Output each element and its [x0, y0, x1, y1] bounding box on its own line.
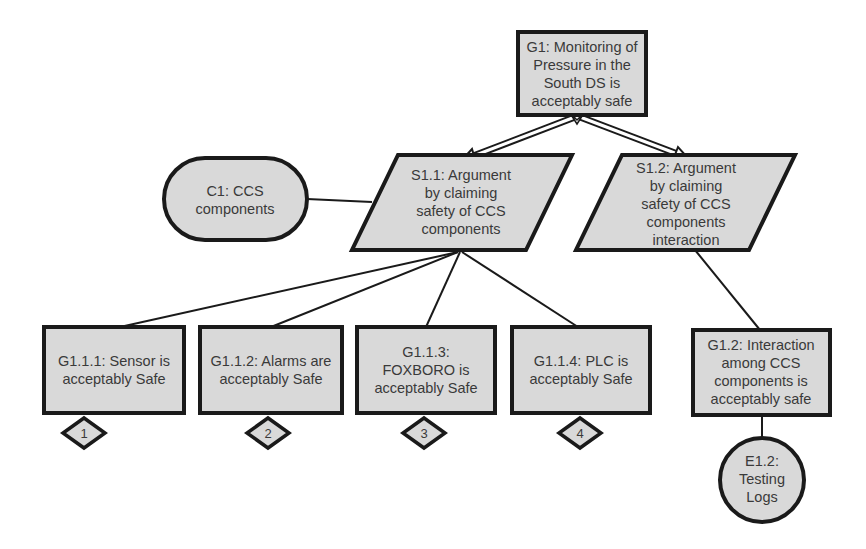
svg-text:acceptably Safe: acceptably Safe [374, 380, 477, 396]
svg-text:3: 3 [420, 426, 427, 441]
node-text-line: by claiming [425, 185, 498, 201]
svg-text:G1.2: Interaction: G1.2: Interaction [707, 337, 814, 353]
svg-text:safety of CCS: safety of CCS [416, 203, 505, 219]
node-text-line: components [647, 214, 726, 230]
svg-text:acceptably safe: acceptably safe [532, 93, 633, 109]
node-text-line: among CCS [722, 355, 801, 371]
context-c1[interactable]: C1: CCS components [164, 158, 307, 240]
node-text-line: FOXBORO is [382, 362, 469, 378]
svg-text:components: components [422, 221, 501, 237]
undeveloped-diamond-4[interactable]: 4 [559, 418, 601, 448]
node-text-line: components is [714, 373, 808, 389]
goal-g1[interactable]: G1: Monitoring of Pressure in the South … [518, 32, 646, 115]
svg-text:Logs: Logs [746, 489, 777, 505]
node-text-line: G1.1.4: PLC is [534, 353, 628, 369]
node-text-line: G1.1.1: Sensor is [58, 353, 170, 369]
node-text-line: acceptably safe [711, 391, 812, 407]
node-text-line: G1.2: Interaction [707, 337, 814, 353]
edge-c1-s1-1 [307, 199, 372, 202]
edge-s1-1-g1-1-2 [271, 252, 458, 327]
node-text-line: acceptably Safe [374, 380, 477, 396]
node-text-line: Logs [746, 489, 777, 505]
gsn-diagram: G1: Monitoring of Pressure in the South … [0, 0, 866, 549]
svg-text:4: 4 [576, 426, 583, 441]
node-text-line: safety of CCS [641, 196, 730, 212]
svg-text:G1.1.3:: G1.1.3: [402, 344, 450, 360]
edge-s1-1-g1-1-1 [120, 252, 458, 327]
svg-text:by claiming: by claiming [425, 185, 498, 201]
svg-text:acceptably Safe: acceptably Safe [62, 371, 165, 387]
svg-text:Testing: Testing [739, 471, 785, 487]
node-text-line: interaction [653, 232, 720, 248]
svg-text:G1.1.2: Alarms are: G1.1.2: Alarms are [211, 353, 332, 369]
edge-s1-2-g1-2 [695, 250, 760, 330]
svg-text:C1: CCS: C1: CCS [206, 183, 263, 199]
undeveloped-diamond-3[interactable]: 3 [403, 418, 445, 448]
diamond-label: 3 [420, 426, 427, 441]
diamond-label: 2 [264, 426, 271, 441]
node-text-line: acceptably Safe [529, 371, 632, 387]
goal-g1-1-2[interactable]: G1.1.2: Alarms are acceptably Safe [200, 327, 342, 413]
goal-g1-1-4[interactable]: G1.1.4: PLC is acceptably Safe [512, 327, 650, 413]
diamond-label: 1 [80, 426, 87, 441]
svg-text:components: components [647, 214, 726, 230]
svg-text:1: 1 [80, 426, 87, 441]
svg-text:FOXBORO is: FOXBORO is [382, 362, 469, 378]
svg-text:Pressure in the: Pressure in the [533, 57, 631, 73]
strategy-s1-2[interactable]: S1.2: Argument by claiming safety of CCS… [576, 155, 795, 250]
diamond-label: 4 [576, 426, 583, 441]
node-text-line: Pressure in the [533, 57, 631, 73]
svg-text:G1.1.1: Sensor is: G1.1.1: Sensor is [58, 353, 170, 369]
goal-g1-2[interactable]: G1.2: Interaction among CCS components i… [693, 330, 830, 415]
node-text-line: South DS is [544, 75, 621, 91]
node-text-line: G1.1.2: Alarms are [211, 353, 332, 369]
edge-s1-1-g1-1-4 [462, 252, 578, 327]
svg-text:acceptably Safe: acceptably Safe [529, 371, 632, 387]
svg-text:G1.1.4: PLC is: G1.1.4: PLC is [534, 353, 628, 369]
svg-text:safety of CCS: safety of CCS [641, 196, 730, 212]
node-text-line: S1.2: Argument [636, 160, 736, 176]
svg-text:components is: components is [714, 373, 808, 389]
svg-text:acceptably safe: acceptably safe [711, 391, 812, 407]
svg-text:S1.1: Argument: S1.1: Argument [411, 167, 511, 183]
svg-text:S1.2: Argument: S1.2: Argument [636, 160, 736, 176]
undeveloped-diamond-1[interactable]: 1 [63, 418, 105, 448]
node-text-line: components [196, 201, 275, 217]
undeveloped-diamond-2[interactable]: 2 [247, 418, 289, 448]
node-text-line: G1: Monitoring of [526, 39, 638, 55]
node-text-line: E1.2: [745, 453, 779, 469]
svg-text:G1: Monitoring of: G1: Monitoring of [526, 39, 638, 55]
svg-text:interaction: interaction [653, 232, 720, 248]
goal-g1-1-3[interactable]: G1.1.3: FOXBORO is acceptably Safe [357, 327, 495, 413]
node-text-line: Testing [739, 471, 785, 487]
node-text-line: G1.1.3: [402, 344, 450, 360]
strategy-s1-1[interactable]: S1.1: Argument by claiming safety of CCS… [352, 155, 572, 250]
svg-text:acceptably Safe: acceptably Safe [219, 371, 322, 387]
node-text-line: acceptably Safe [62, 371, 165, 387]
svg-text:South DS is: South DS is [544, 75, 621, 91]
node-text-line: by claiming [650, 178, 723, 194]
evidence-e1-2[interactable]: E1.2: Testing Logs [720, 438, 804, 522]
svg-text:by claiming: by claiming [650, 178, 723, 194]
node-text-line: safety of CCS [416, 203, 505, 219]
node-text-line: acceptably safe [532, 93, 633, 109]
goal-g1-1-1[interactable]: G1.1.1: Sensor is acceptably Safe [44, 327, 184, 413]
node-text-line: S1.1: Argument [411, 167, 511, 183]
svg-text:among CCS: among CCS [722, 355, 801, 371]
node-text-line: acceptably Safe [219, 371, 322, 387]
node-text-line: components [422, 221, 501, 237]
svg-text:components: components [196, 201, 275, 217]
node-text-line: C1: CCS [206, 183, 263, 199]
svg-text:E1.2:: E1.2: [745, 453, 779, 469]
svg-text:2: 2 [264, 426, 271, 441]
